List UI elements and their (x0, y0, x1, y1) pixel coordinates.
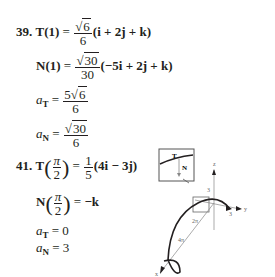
subscript: N (43, 247, 50, 257)
numerator: 1 (84, 154, 93, 168)
inset-N-label: N (182, 164, 187, 172)
radicand: 30 (72, 120, 87, 136)
4pi-label: 4π (178, 237, 184, 243)
helix-figure: T N z 3 y 3 x 2π 4π (150, 145, 275, 277)
equals: = (63, 24, 70, 39)
denominator: 2 (53, 168, 62, 181)
fraction: 5√6 6 (63, 88, 87, 115)
subscript: T (43, 230, 49, 240)
T-lhs: T(1) (36, 24, 60, 39)
vector: (i + 2j + k) (93, 24, 151, 39)
fraction: √30 6 (64, 122, 88, 149)
T-lhs: T (36, 158, 45, 173)
equals: = (52, 92, 59, 107)
equals: = (74, 194, 81, 209)
denominator: 2 (54, 204, 63, 217)
equals: = (73, 158, 80, 173)
y-label: y (244, 206, 247, 212)
aN-value: 3 (63, 240, 70, 255)
N-lhs: N (36, 194, 45, 209)
equals: = (52, 240, 59, 255)
z-label: z (213, 161, 216, 167)
problem-number: 39. (16, 24, 32, 39)
fraction: √6 6 (74, 20, 92, 47)
x-axis (160, 203, 214, 273)
radicand: 6 (82, 18, 91, 34)
inset-T-label: T (172, 152, 177, 160)
subscript: T (43, 99, 49, 109)
denominator: 5 (84, 168, 93, 181)
aT-value: 0 (62, 223, 69, 238)
problem-41-aT-line: aT = 0 (36, 223, 69, 240)
z-tick: 3 (207, 187, 210, 193)
N-lhs: N(1) (36, 58, 61, 73)
denominator: 6 (74, 34, 92, 47)
problem-number: 41. (16, 158, 32, 173)
radicand: 6 (78, 86, 87, 102)
radicand: 30 (84, 52, 99, 68)
argument-fraction: π 2 (54, 190, 63, 217)
equals: = (52, 223, 59, 238)
y-tick: 3 (229, 211, 232, 217)
fraction: √30 30 (75, 54, 99, 81)
argument-fraction: π 2 (53, 154, 62, 181)
problem-39-N-line: N(1) = √30 30 (−5i + 2j + k) (36, 54, 173, 81)
vector: (4i − 3j) (94, 158, 138, 173)
denominator: 6 (64, 136, 88, 149)
vector: (−5i + 2j + k) (101, 58, 173, 73)
problem-39-aN-line: aN = √30 6 (36, 122, 89, 149)
problem-39-T-line: 39. T(1) = √6 6 (i + 2j + k) (16, 20, 151, 47)
fraction: 1 5 (84, 154, 93, 181)
denominator: 6 (63, 102, 87, 115)
equals: = (64, 58, 71, 73)
problem-41-N-line: N( π 2 ) = −k (36, 190, 99, 217)
x-label: x (155, 271, 158, 277)
N-value: −k (84, 194, 99, 209)
denominator: 30 (75, 68, 99, 81)
problem-41-aN-line: aN = 3 (36, 240, 69, 257)
subscript: N (43, 133, 50, 143)
problem-41-T-line: 41. T( π 2 ) = 1 5 (4i − 3j) (16, 154, 137, 181)
numerator: π (53, 154, 62, 168)
helix-curve (164, 199, 230, 273)
problem-39-aT-line: aT = 5√6 6 (36, 88, 89, 115)
equals: = (52, 126, 59, 141)
numerator: π (54, 190, 63, 204)
2pi-label: 2π (192, 218, 198, 224)
